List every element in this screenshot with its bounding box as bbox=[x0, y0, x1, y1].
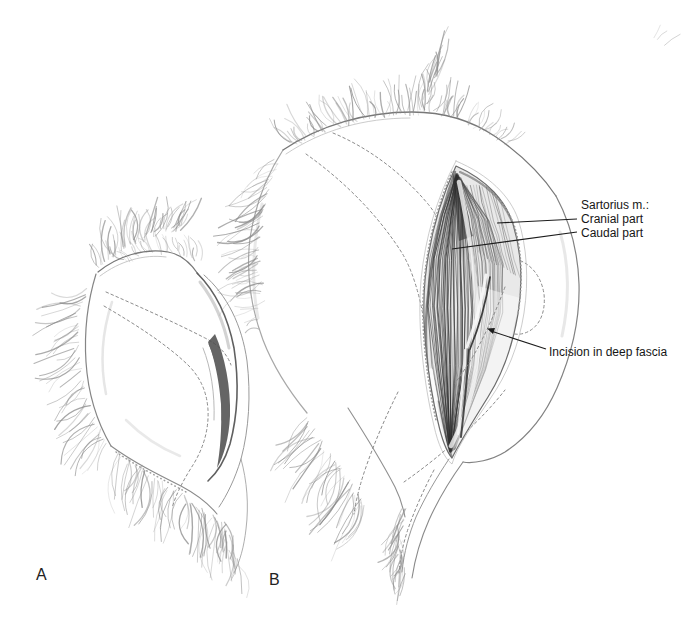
fur-stroke bbox=[190, 238, 197, 256]
fur-stroke bbox=[245, 328, 259, 333]
panel-a-inner-shade-2 bbox=[126, 420, 180, 456]
fur-stroke bbox=[153, 479, 155, 518]
panel-a-illustration bbox=[33, 197, 249, 598]
fur-stroke bbox=[66, 388, 84, 405]
panel-b-dorsal-edge bbox=[283, 112, 556, 196]
panel-b-illustration bbox=[214, 25, 681, 604]
fur-stroke bbox=[501, 123, 514, 139]
fur-stroke bbox=[235, 301, 265, 308]
fur-stroke bbox=[235, 309, 255, 317]
fur-stroke bbox=[300, 445, 321, 474]
panel-b-leg-band-right bbox=[412, 462, 463, 578]
fur-stroke bbox=[238, 298, 252, 299]
panel-a-thigh-top-echo bbox=[100, 256, 166, 276]
panel-a-left-edge bbox=[85, 274, 111, 446]
panel-a-fur bbox=[33, 197, 249, 598]
fur-stroke bbox=[229, 180, 268, 206]
panel-b-dorsal-echo bbox=[286, 118, 410, 154]
fur-stroke bbox=[336, 103, 347, 124]
figure-stage: Sartorius m.: Cranial part Caudal part I… bbox=[0, 0, 687, 625]
panel-b-dashed-skin-line-upper bbox=[333, 133, 438, 220]
fur-stroke bbox=[247, 320, 258, 326]
fur-stroke bbox=[654, 25, 660, 38]
label-sartorius-cranial: Cranial part bbox=[581, 212, 644, 226]
fur-stroke bbox=[141, 241, 147, 252]
fur-stroke bbox=[208, 515, 216, 547]
fur-stroke bbox=[197, 510, 199, 562]
panel-a-crease-line bbox=[197, 273, 237, 481]
fur-stroke bbox=[402, 95, 406, 114]
panel-a-slit-highlight bbox=[203, 348, 214, 420]
fur-stroke bbox=[665, 34, 681, 45]
fur-stroke bbox=[192, 248, 194, 261]
fur-stroke bbox=[108, 456, 122, 513]
panel-a-skin-slit bbox=[208, 334, 230, 468]
figure-canvas: Sartorius m.: Cranial part Caudal part I… bbox=[0, 0, 687, 625]
label-incision-fascia: Incision in deep fascia bbox=[549, 345, 667, 359]
fur-stroke bbox=[384, 81, 394, 115]
label-sartorius-header: Sartorius m.: bbox=[581, 198, 649, 212]
fur-stroke bbox=[437, 96, 442, 112]
panel-a-inner-shade-1 bbox=[103, 302, 112, 394]
fur-stroke bbox=[293, 449, 321, 489]
fur-stroke bbox=[413, 91, 416, 112]
panel-b-dashed-skin-line-lower bbox=[306, 154, 425, 328]
fur-stroke bbox=[287, 104, 306, 135]
fur-stroke bbox=[55, 324, 78, 341]
panel-a-letter: A bbox=[36, 566, 47, 583]
fur-stroke bbox=[310, 105, 323, 132]
surgical-opening bbox=[420, 161, 527, 464]
fur-stroke bbox=[198, 241, 202, 260]
panel-b-leg-band-left bbox=[402, 459, 449, 572]
panel-b-letter: B bbox=[269, 571, 280, 588]
fur-stroke bbox=[276, 423, 307, 445]
fur-stroke bbox=[42, 302, 83, 316]
fur-stroke bbox=[394, 85, 401, 111]
label-sartorius-caudal: Caudal part bbox=[581, 226, 644, 240]
fur-stroke bbox=[658, 31, 667, 39]
fur-stroke bbox=[210, 525, 217, 578]
fur-stroke bbox=[121, 464, 127, 511]
fur-stroke bbox=[493, 125, 500, 135]
fur-stroke bbox=[126, 209, 131, 245]
fur-stroke bbox=[93, 245, 101, 265]
fur-stroke bbox=[179, 504, 188, 544]
panel-b-rump-shade bbox=[560, 232, 567, 336]
panel-a-dashed-incision-plan-lower bbox=[104, 306, 208, 508]
fur-stroke bbox=[354, 79, 367, 115]
fur-stroke bbox=[36, 332, 78, 354]
fur-stroke bbox=[35, 358, 79, 379]
fur-stroke bbox=[178, 246, 180, 257]
panel-a-lower-leg-edge bbox=[234, 459, 247, 573]
